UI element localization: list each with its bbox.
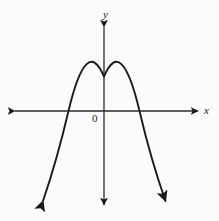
origin-label: 0 bbox=[92, 113, 98, 124]
x-axis-label: x bbox=[204, 105, 209, 116]
graph-figure: y x 0 bbox=[0, 0, 219, 221]
y-axis-label: y bbox=[103, 9, 108, 20]
coordinate-plane-svg bbox=[0, 0, 219, 221]
